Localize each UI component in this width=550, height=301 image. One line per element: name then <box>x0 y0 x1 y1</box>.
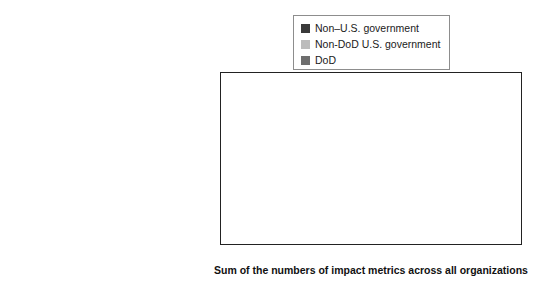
plot-area <box>220 72 522 245</box>
legend-item-dod: DoD <box>301 53 449 68</box>
legend-label-non-dod-us-government: Non-DoD U.S. government <box>315 39 440 50</box>
chart-legend: Non–U.S. government Non-DoD U.S. governm… <box>293 15 450 70</box>
x-axis-title: Sum of the numbers of impact metrics acr… <box>196 264 546 277</box>
legend-swatch-non-us-government <box>301 24 310 33</box>
x-axis-ticks <box>220 245 522 263</box>
legend-item-non-us-government: Non–U.S. government <box>301 21 449 36</box>
legend-label-non-us-government: Non–U.S. government <box>315 23 419 34</box>
legend-swatch-non-dod-us-government <box>301 40 310 49</box>
bars-container <box>221 73 521 244</box>
category-axis-labels <box>0 72 220 245</box>
legend-item-non-dod-us-government: Non-DoD U.S. government <box>301 37 449 52</box>
legend-label-dod: DoD <box>315 55 336 66</box>
legend-swatch-dod <box>301 56 310 65</box>
